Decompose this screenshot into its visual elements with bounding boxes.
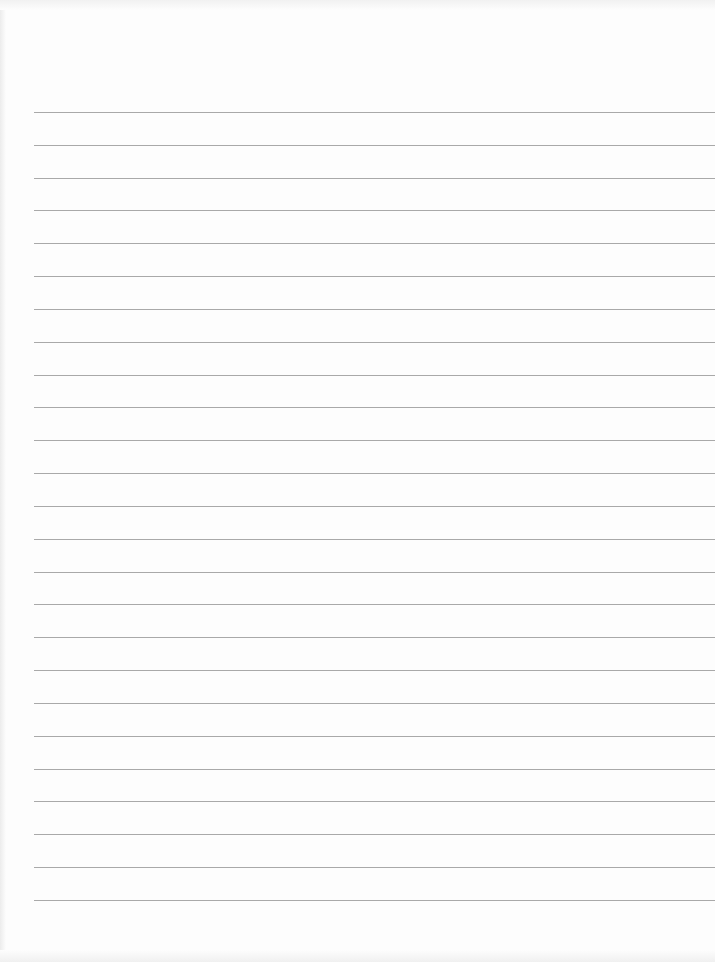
ruled-line: [34, 670, 715, 671]
ruled-line: [34, 309, 715, 310]
ruled-line: [34, 769, 715, 770]
ruled-line: [34, 572, 715, 573]
bottom-edge-shadow: [0, 950, 715, 962]
ruled-line: [34, 834, 715, 835]
left-edge-shadow: [0, 0, 6, 962]
ruled-line: [34, 112, 715, 113]
ruled-line: [34, 178, 715, 179]
ruled-line: [34, 604, 715, 605]
top-edge-shadow: [0, 0, 715, 10]
ruled-line: [34, 801, 715, 802]
ruled-line: [34, 276, 715, 277]
ruled-line: [34, 407, 715, 408]
ruled-line: [34, 440, 715, 441]
ruled-line: [34, 342, 715, 343]
ruled-line: [34, 539, 715, 540]
ruled-line: [34, 243, 715, 244]
ruled-line: [34, 506, 715, 507]
ruled-line: [34, 900, 715, 901]
ruled-line: [34, 736, 715, 737]
ruled-line: [34, 375, 715, 376]
ruled-line: [34, 473, 715, 474]
ruled-line: [34, 867, 715, 868]
ruled-line: [34, 145, 715, 146]
ruled-line: [34, 210, 715, 211]
ruled-line: [34, 637, 715, 638]
ruled-line: [34, 703, 715, 704]
